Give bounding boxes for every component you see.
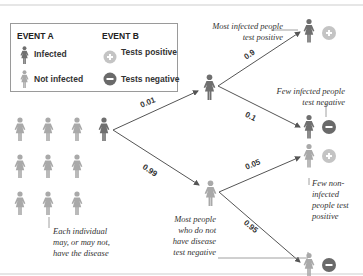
node-infected-icon <box>204 74 216 100</box>
outcome-infected-person-icon <box>304 19 315 43</box>
annotation-few-non-infected: Few non- infected people test positive <box>312 178 349 222</box>
outcome-not-infected-person-icon <box>304 144 315 168</box>
plus-circle-icon <box>322 149 336 163</box>
annotation-few-infected: Few infected people test negative <box>250 86 345 108</box>
legend-infected-label: Infected <box>34 49 67 59</box>
legend-event-a-title: EVENT A <box>17 31 54 41</box>
annotation-most-people: Most people who do not have disease test… <box>148 214 216 258</box>
person-light-icon <box>15 117 26 141</box>
person-dark-icon <box>99 117 110 141</box>
annotation-most-infected: Most infected people test positive <box>193 21 283 43</box>
annotation-each-individual: Each individual may, or may not, have th… <box>53 226 110 259</box>
minus-circle-icon <box>322 258 336 272</box>
person-light-icon <box>43 154 54 178</box>
person-light-icon <box>15 154 26 178</box>
legend: EVENT A EVENT B Infected Not infected Te… <box>10 23 178 92</box>
legend-not-infected-label: Not infected <box>34 74 83 84</box>
person-light-icon <box>15 191 26 215</box>
person-dark-icon <box>20 46 29 64</box>
node-not-infected-icon <box>205 180 217 206</box>
person-light-icon <box>72 154 83 178</box>
minus-circle-icon <box>103 72 117 86</box>
person-light-icon <box>43 117 54 141</box>
plus-circle-icon <box>322 26 336 40</box>
person-light-icon <box>20 70 29 88</box>
legend-tests-negative-label: Tests negative <box>121 74 179 84</box>
person-light-icon <box>43 191 54 215</box>
population-grid <box>15 117 110 215</box>
person-light-icon <box>72 117 83 141</box>
minus-circle-icon <box>322 120 336 134</box>
legend-tests-positive-label: Tests positive <box>121 47 177 57</box>
branch-infected <box>113 91 198 130</box>
plus-circle-icon <box>103 50 117 64</box>
outcome-not-infected-person-icon <box>304 253 315 276</box>
person-light-icon <box>72 191 83 215</box>
legend-event-b-title: EVENT B <box>102 31 139 41</box>
branch-not-infected <box>113 130 199 185</box>
outcome-infected-person-icon <box>304 115 315 139</box>
